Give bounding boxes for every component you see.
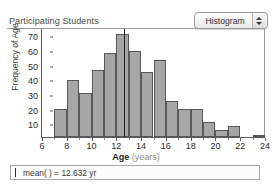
x-axis-label: Age (years) (0, 152, 272, 162)
histogram-bar[interactable] (67, 80, 79, 137)
histogram-bar[interactable] (92, 70, 104, 137)
x-tick-label: 16 (161, 141, 171, 151)
x-tick-mark-minor (178, 138, 179, 140)
y-tick-label: 60 (28, 47, 38, 57)
x-tick-label: 14 (136, 141, 146, 151)
x-tick-mark-minor (54, 138, 55, 140)
y-tick-label: 50 (28, 62, 38, 72)
histogram-bar[interactable] (178, 109, 190, 137)
page-title: Participating Students (9, 16, 99, 26)
plot-area[interactable] (42, 29, 265, 137)
y-tick-label: 10 (28, 120, 38, 130)
histogram-bar[interactable] (253, 135, 265, 137)
y-axis-ticks: 10203040506070 (12, 31, 38, 138)
histogram-bar[interactable] (129, 51, 141, 137)
status-bar[interactable]: mean( ) = 12.632 yr (10, 165, 260, 180)
histogram-bar[interactable] (54, 109, 66, 137)
y-tick-label: 20 (28, 106, 38, 116)
x-tick-mark-minor (253, 138, 254, 140)
x-tick-mark-minor (203, 138, 204, 140)
triangle-down-icon[interactable] (256, 22, 262, 25)
x-axis-ticks: 681012141618202224 (42, 138, 265, 152)
plot-type-select-value: Histogram (201, 16, 252, 26)
plot-type-select[interactable]: Histogram (194, 12, 268, 29)
x-tick-label: 22 (235, 141, 245, 151)
status-bar-text: mean( ) = 12.632 yr (23, 168, 96, 178)
x-tick-label: 8 (64, 141, 69, 151)
histogram-bar[interactable] (203, 122, 215, 137)
histogram-bar[interactable] (228, 126, 240, 137)
histogram-bar[interactable] (104, 53, 116, 137)
x-tick-mark-minor (154, 138, 155, 140)
histogram-bar[interactable] (154, 60, 166, 137)
x-axis-label-unit: (years) (132, 152, 160, 162)
y-tick-label: 30 (28, 91, 38, 101)
x-tick-mark-minor (129, 138, 130, 140)
histogram-bar[interactable] (191, 109, 203, 137)
x-tick-label: 18 (186, 141, 196, 151)
x-tick-label: 6 (39, 141, 44, 151)
histogram-plot-window: Participating Students Histogram Frequen… (0, 0, 272, 186)
histogram-bar[interactable] (215, 130, 227, 137)
x-tick-mark-minor (104, 138, 105, 140)
text-caret-icon (15, 168, 16, 177)
x-tick-label: 10 (87, 141, 97, 151)
triangle-up-icon[interactable] (256, 17, 262, 20)
histogram-bar[interactable] (166, 101, 178, 137)
histogram-bar[interactable] (79, 93, 91, 137)
x-tick-mark-minor (79, 138, 80, 140)
mean-marker-line[interactable] (124, 29, 125, 137)
histogram-bar[interactable] (116, 34, 128, 137)
x-tick-label: 20 (210, 141, 220, 151)
x-tick-label: 24 (260, 141, 270, 151)
plot-type-stepper[interactable] (252, 13, 265, 28)
x-axis-label-main: Age (112, 152, 129, 162)
histogram-bar[interactable] (141, 72, 153, 137)
x-tick-mark-minor (228, 138, 229, 140)
y-tick-label: 40 (28, 76, 38, 86)
x-tick-label: 12 (111, 141, 121, 151)
y-tick-label: 70 (28, 32, 38, 42)
